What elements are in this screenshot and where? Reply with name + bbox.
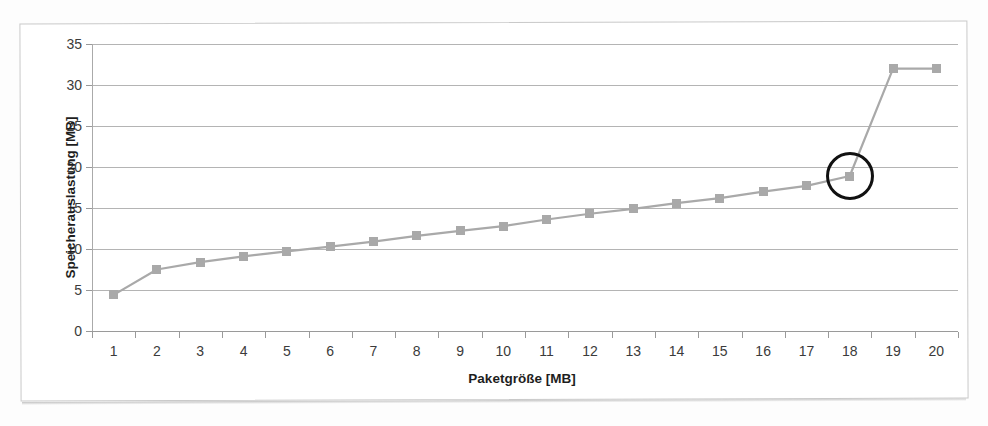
x-tick-label: 6 [310,344,350,358]
x-tick-mark [92,332,93,338]
data-point-marker [802,181,811,190]
y-axis-line [92,44,93,332]
gridline [92,85,958,86]
x-tick-label: 7 [353,344,393,358]
x-tick-mark [612,332,613,338]
y-axis-title-wrap: Speicherauslastung [MB] [30,40,60,330]
x-tick-label: 12 [570,344,610,358]
y-tick-mark [86,167,92,168]
data-point-marker [456,226,465,235]
x-tick-mark [871,332,872,338]
x-tick-label: 4 [224,344,264,358]
gridline [92,208,958,209]
x-tick-mark [915,332,916,338]
highlight-circle-icon [826,152,874,200]
x-tick-mark [655,332,656,338]
x-tick-mark [698,332,699,338]
data-point-marker [109,290,118,299]
data-point-marker [152,265,161,274]
x-tick-label: 18 [830,344,870,358]
y-tick-mark [86,44,92,45]
data-point-marker [889,64,898,73]
x-tick-label: 17 [786,344,826,358]
gridline [92,44,958,45]
data-point-marker [196,258,205,267]
data-point-marker [759,187,768,196]
x-tick-mark [222,332,223,338]
x-tick-label: 9 [440,344,480,358]
data-point-marker [932,64,941,73]
data-point-marker [412,231,421,240]
x-tick-label: 14 [657,344,697,358]
x-tick-mark [309,332,310,338]
data-point-marker [369,237,378,246]
x-tick-label: 19 [873,344,913,358]
x-tick-mark [482,332,483,338]
data-point-marker [672,199,681,208]
x-tick-mark [438,332,439,338]
y-tick-mark [86,249,92,250]
data-point-marker [629,204,638,213]
x-tick-mark [525,332,526,338]
data-point-marker [499,222,508,231]
x-tick-mark [568,332,569,338]
x-tick-mark [265,332,266,338]
x-tick-label: 15 [700,344,740,358]
x-tick-mark [742,332,743,338]
data-point-marker [715,194,724,203]
data-point-marker [239,252,248,261]
x-tick-label: 10 [483,344,523,358]
x-tick-mark [828,332,829,338]
x-tick-mark [958,332,959,338]
x-axis-title: Paketgröße [MB] [468,371,575,386]
x-tick-mark [785,332,786,338]
x-tick-label: 11 [527,344,567,358]
x-tick-label: 3 [180,344,220,358]
x-tick-label: 5 [267,344,307,358]
data-point-marker [326,242,335,251]
gridline [92,126,958,127]
gridline [92,290,958,291]
x-axis-title-wrap: Paketgröße [MB] [0,371,988,386]
data-point-marker [542,215,551,224]
data-point-marker [282,247,291,256]
x-tick-mark [179,332,180,338]
x-tick-label: 1 [94,344,134,358]
x-tick-label: 2 [137,344,177,358]
x-tick-mark [135,332,136,338]
y-tick-mark [86,126,92,127]
x-tick-label: 13 [613,344,653,358]
gridline [92,249,958,250]
x-tick-label: 16 [743,344,783,358]
x-tick-mark [395,332,396,338]
y-axis-title: Speicherauslastung [MB] [63,98,78,298]
y-tick-mark [86,208,92,209]
x-tick-label: 8 [397,344,437,358]
x-tick-mark [352,332,353,338]
data-point-marker [585,209,594,218]
y-tick-mark [86,85,92,86]
x-tick-label: 20 [916,344,956,358]
y-tick-mark [86,290,92,291]
